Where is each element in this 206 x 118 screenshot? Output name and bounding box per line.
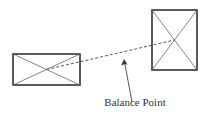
balance-point-label: Balance Point	[80, 96, 190, 108]
